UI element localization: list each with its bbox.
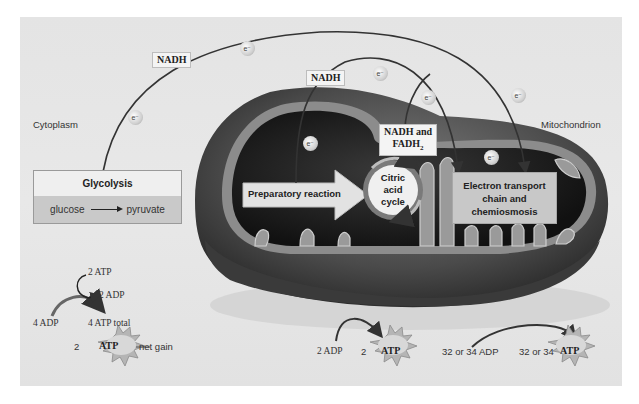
nadh-tag-glycolysis: NADH [152, 52, 191, 68]
nadh-fadh2-line1: NADH and [384, 126, 432, 138]
electron-icon: e⁻ [484, 150, 499, 165]
etc-label-box: Electron transport chain and chemiosmosi… [452, 172, 557, 224]
electron-icon: e⁻ [303, 136, 318, 151]
glycolysis-box: Glycolysis glucose pyruvate [33, 170, 182, 224]
electron-icon: e⁻ [421, 90, 436, 105]
etc-input-adp: 32 or 34 ADP [442, 346, 499, 357]
mitochondrion-label: Mitochondrion [541, 119, 601, 130]
atp-burst-icon: ATP [560, 345, 579, 356]
electron-icon: e⁻ [373, 66, 388, 81]
electron-icon: e⁻ [128, 110, 143, 125]
electron-icon: e⁻ [511, 88, 526, 103]
citric-atp-count: 2 [361, 346, 366, 357]
atp-burst-icon: ATP [381, 345, 400, 356]
glycolysis-net-count: 2 [74, 341, 79, 352]
glycolysis-input-adp: 4 ADP [33, 318, 59, 328]
glycolysis-total: 4 ATP total [88, 318, 130, 328]
glycolysis-invest-atp: 2 ATP [88, 267, 112, 277]
glycolysis-reaction: glucose pyruvate [34, 196, 181, 223]
cytoplasm-label: Cytoplasm [33, 119, 78, 130]
nadh-fadh2-tag: NADH and FADH2 [379, 124, 437, 156]
etc-atp-count: 32 or 34 [519, 346, 554, 357]
right-arrow-icon [91, 209, 121, 210]
citric-acid-cycle-label: Citric acid cycle [371, 172, 415, 208]
atp-burst-icon: ATP [99, 340, 118, 351]
nadh-fadh2-line2: FADH2 [384, 138, 432, 154]
glycolysis-invest-adp: 2 ADP [99, 290, 125, 300]
glycolysis-net-gain: net gain [139, 341, 173, 352]
electron-icon: e⁻ [240, 41, 255, 56]
citric-input-adp: 2 ADP [317, 346, 343, 356]
glycolysis-output: pyruvate [127, 204, 165, 215]
preparatory-reaction-label: Preparatory reaction [248, 188, 341, 199]
glycolysis-input: glucose [50, 204, 84, 215]
glycolysis-title: Glycolysis [34, 171, 181, 196]
nadh-tag-prep: NADH [306, 70, 345, 86]
